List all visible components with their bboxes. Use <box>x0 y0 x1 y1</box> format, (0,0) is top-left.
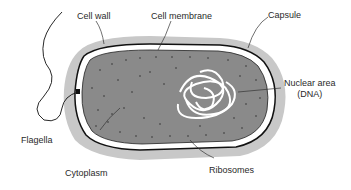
label-flagella: Flagella <box>21 135 53 146</box>
label-nuclear-area-line1: Nuclear area <box>284 78 336 89</box>
bacterial-cell-diagram: Cell wall Cell membrane Capsule Nuclear … <box>0 0 351 190</box>
label-cytoplasm: Cytoplasm <box>65 168 108 179</box>
label-ribosomes: Ribosomes <box>209 165 254 176</box>
label-nuclear-area-line2: (DNA) <box>284 89 336 100</box>
label-capsule: Capsule <box>268 10 301 21</box>
label-nuclear-area: Nuclear area (DNA) <box>284 78 336 100</box>
label-cell-wall: Cell wall <box>77 11 111 22</box>
cytoplasm-shape <box>82 50 268 144</box>
label-cell-membrane: Cell membrane <box>151 11 212 22</box>
